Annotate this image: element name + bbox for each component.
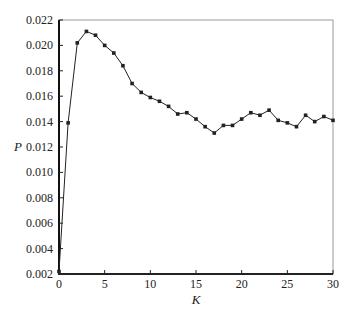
data-point: [240, 117, 244, 121]
data-point: [331, 119, 335, 123]
x-tick-label: 30: [327, 277, 339, 291]
x-tick-label: 25: [281, 277, 293, 291]
data-point: [249, 111, 253, 115]
x-tick-label: 20: [236, 277, 248, 291]
data-point: [194, 117, 198, 121]
y-tick-label: 0.012: [26, 140, 53, 154]
data-point: [212, 131, 216, 135]
data-point: [139, 91, 143, 95]
x-tick-label: 5: [102, 277, 108, 291]
y-tick-label: 0.022: [26, 13, 53, 27]
x-tick-label: 0: [56, 277, 62, 291]
x-tick-label: 15: [190, 277, 202, 291]
series-line: [59, 31, 333, 271]
data-point: [112, 51, 116, 55]
x-axis-label: K: [191, 292, 202, 307]
y-tick-label: 0.014: [26, 115, 53, 129]
data-point: [85, 30, 89, 34]
x-tick-label: 10: [144, 277, 156, 291]
data-point: [258, 113, 262, 117]
y-tick-label: 0.016: [26, 89, 53, 103]
data-point: [276, 119, 280, 123]
data-point: [158, 99, 162, 103]
y-tick-label: 0.010: [26, 165, 53, 179]
y-tick-label: 0.002: [26, 267, 53, 281]
data-point: [176, 112, 180, 116]
data-point: [94, 33, 98, 37]
data-point: [222, 124, 226, 128]
y-tick-label: 0.018: [26, 64, 53, 78]
data-point: [66, 121, 70, 125]
data-point: [130, 82, 134, 86]
plot-border: [59, 20, 333, 274]
line-chart: 0.0020.0040.0060.0080.0100.0120.0140.016…: [0, 0, 351, 317]
data-point: [185, 111, 189, 115]
data-point: [121, 64, 125, 68]
data-point: [167, 105, 171, 109]
data-point: [57, 270, 61, 274]
data-point: [304, 113, 308, 117]
y-axis-label: P: [13, 139, 22, 154]
y-tick-label: 0.006: [26, 216, 53, 230]
y-tick-label: 0.020: [26, 38, 53, 52]
series-group: [57, 30, 335, 274]
data-point: [322, 115, 326, 119]
data-point: [231, 124, 235, 128]
data-point: [295, 125, 299, 129]
data-point: [75, 41, 79, 45]
data-point: [149, 96, 153, 100]
data-point: [103, 44, 107, 48]
data-point: [203, 125, 207, 129]
data-point: [313, 120, 317, 124]
plot-frame: [58, 20, 333, 275]
data-point: [267, 108, 271, 112]
data-point: [286, 121, 290, 125]
y-axis: 0.0020.0040.0060.0080.0100.0120.0140.016…: [26, 13, 63, 281]
y-tick-label: 0.004: [26, 242, 53, 256]
y-tick-label: 0.008: [26, 191, 53, 205]
